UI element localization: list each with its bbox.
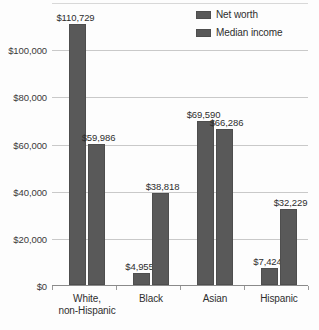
x-axis-category-label-line: Black	[139, 293, 163, 304]
legend-label-median-income: Median income	[216, 27, 283, 38]
x-axis-category-label-line: White,	[73, 293, 101, 304]
bar	[216, 129, 233, 285]
bar	[152, 193, 169, 285]
legend-swatch-icon-net-worth	[196, 11, 211, 19]
gridline	[52, 97, 308, 98]
bar-value-label: $66,286	[210, 117, 244, 128]
plot-area: $110,729$59,986$4,955$38,818$69,590$66,2…	[52, 3, 308, 286]
bar	[280, 209, 297, 285]
legend-swatch-icon-median-income	[196, 29, 211, 37]
x-axis-category-label-line: non-Hispanic	[58, 305, 115, 317]
y-axis-tick-label: $0	[0, 281, 47, 292]
bar	[261, 268, 278, 286]
gridline	[52, 50, 308, 51]
x-axis-tick-mark	[308, 286, 309, 290]
y-axis-tick-label: $100,000	[0, 45, 47, 56]
bar-chart: $110,729$59,986$4,955$38,818$69,590$66,2…	[0, 0, 319, 330]
x-axis-tick-mark	[52, 286, 53, 290]
x-axis-tick-mark	[244, 286, 245, 290]
legend-item-median-income: Median income	[196, 27, 283, 38]
x-axis-category-label-line: Hispanic	[260, 293, 298, 304]
y-axis-tick-label: $20,000	[0, 233, 47, 244]
x-axis-category-label: Black	[139, 293, 163, 305]
legend-label-net-worth: Net worth	[216, 9, 258, 20]
chart-legend: Net worth Median income	[196, 9, 283, 45]
x-axis-category-label: Asian	[203, 293, 228, 305]
y-axis-tick-label: $40,000	[0, 186, 47, 197]
x-axis-category-label-line: Asian	[203, 293, 228, 304]
y-axis-tick-label: $60,000	[0, 139, 47, 150]
bar-value-label: $38,818	[146, 181, 180, 192]
bar-value-label: $110,729	[56, 12, 94, 23]
bar	[69, 24, 86, 285]
x-axis-tick-mark	[180, 286, 181, 290]
bar-value-label: $32,229	[274, 197, 308, 208]
bar-value-label: $7,424	[253, 256, 281, 267]
x-axis-category-label: Hispanic	[260, 293, 298, 305]
legend-item-net-worth: Net worth	[196, 9, 283, 20]
bar	[197, 121, 214, 285]
bar	[133, 273, 150, 285]
x-axis-category-label: White,non-Hispanic	[58, 293, 115, 317]
x-axis-tick-mark	[116, 286, 117, 290]
y-axis-tick-label: $80,000	[0, 92, 47, 103]
bar-value-label: $59,986	[82, 132, 116, 143]
gridline-top	[52, 3, 308, 4]
bar	[88, 144, 105, 285]
bar-value-label: $4,955	[125, 261, 153, 272]
